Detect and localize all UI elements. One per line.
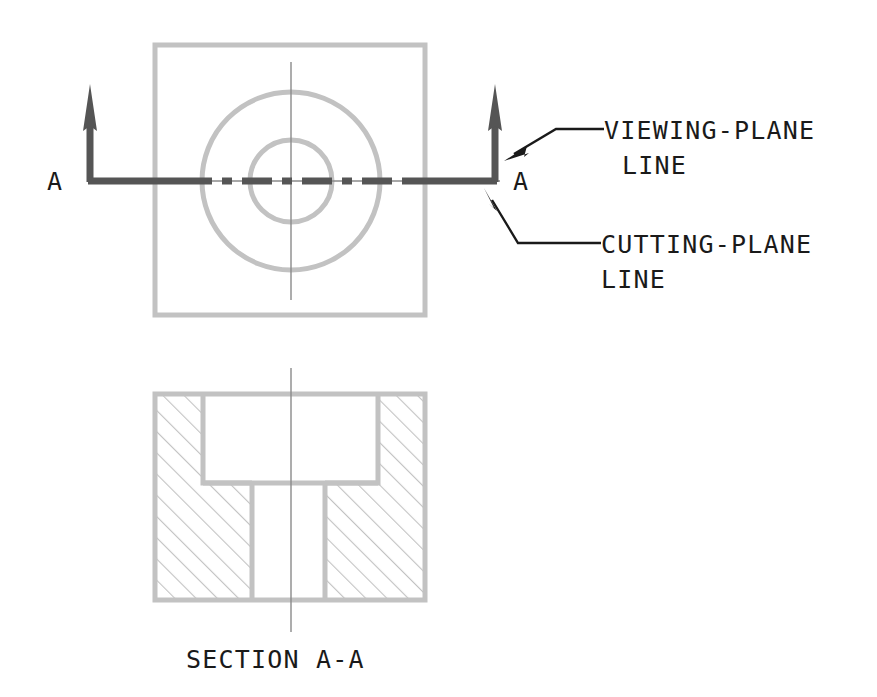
cutting-plane-leader-arrowhead bbox=[484, 188, 497, 211]
section-through-hole-outline bbox=[252, 483, 325, 600]
drawing-canvas: VIEWING-PLANE LINE CUTTING-PLANE LINE A … bbox=[0, 0, 877, 697]
leader-lines-group bbox=[484, 129, 604, 243]
technical-drawing: VIEWING-PLANE LINE CUTTING-PLANE LINE A … bbox=[0, 0, 877, 697]
cutting-plane-label-line2: LINE bbox=[601, 265, 666, 294]
section-view-group bbox=[150, 368, 440, 632]
section-arrow-label-right: A bbox=[513, 167, 528, 196]
cutting-plane-arrowhead-right bbox=[488, 84, 502, 131]
cutting-plane-line-group bbox=[83, 84, 502, 182]
viewing-plane-label-line1: VIEWING-PLANE bbox=[604, 116, 815, 145]
viewing-plane-label-line2: LINE bbox=[622, 151, 687, 180]
cutting-plane-label-line1: CUTTING-PLANE bbox=[601, 230, 812, 259]
section-arrow-label-left: A bbox=[47, 167, 62, 196]
viewing-plane-leader-arrowhead bbox=[504, 146, 529, 161]
viewing-plane-leader-line bbox=[514, 129, 604, 154]
cutting-plane-arrowhead-left bbox=[83, 84, 97, 131]
section-caption: SECTION A-A bbox=[186, 645, 365, 674]
cutting-plane-leader-line bbox=[492, 200, 601, 243]
